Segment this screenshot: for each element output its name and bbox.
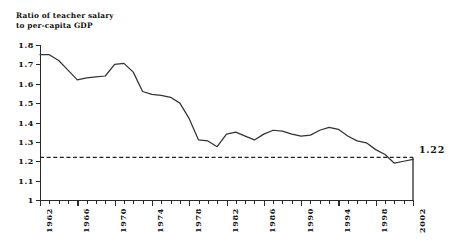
x-tick-mark-minor [105, 200, 106, 204]
x-tick-label: 1974 [155, 208, 165, 233]
axis-title: Ratio of teacher salary to per-capita GD… [16, 11, 114, 31]
x-tick-mark-major [376, 200, 377, 206]
x-tick-mark-minor [394, 200, 395, 204]
y-tick-label: 1 [28, 195, 34, 205]
data-series-line [40, 55, 413, 164]
x-tick-mark-minor [310, 200, 311, 204]
x-tick-label: 1994 [342, 208, 352, 233]
x-tick-label: 1962 [44, 208, 54, 233]
x-tick-mark-major [189, 200, 190, 206]
x-tick-label: 2002 [417, 208, 427, 233]
x-tick-mark-minor [404, 200, 405, 204]
x-tick-mark-minor [59, 200, 60, 204]
x-tick-label: 1978 [193, 208, 203, 233]
x-tick-mark-minor [143, 200, 144, 204]
plot-area: 1.81.71.61.51.41.31.21.11 19621966197019… [40, 45, 413, 200]
y-tick-label: 1.4 [18, 118, 34, 128]
x-tick-mark-minor [96, 200, 97, 204]
y-tick-label: 1.6 [18, 79, 34, 89]
endpoint-value-label: 1.22 [419, 144, 445, 155]
x-tick-mark-minor [68, 200, 69, 204]
y-tick-label: 1.1 [18, 176, 34, 186]
x-tick-mark-major [227, 200, 228, 206]
y-tick-label: 1.7 [18, 59, 34, 69]
x-tick-label: 1970 [118, 208, 128, 233]
y-tick-label: 1.8 [18, 40, 34, 50]
x-tick-mark-major [338, 200, 339, 206]
x-tick-mark-minor [199, 200, 200, 204]
x-tick-mark-major [413, 200, 414, 206]
axis-title-line-2: to per-capita GDP [16, 21, 114, 31]
x-tick-label: 1986 [267, 208, 277, 233]
x-tick-label: 1998 [379, 208, 389, 233]
axis-title-line-1: Ratio of teacher salary [16, 11, 114, 21]
x-tick-mark-minor [245, 200, 246, 204]
x-tick-mark-major [77, 200, 78, 206]
x-tick-mark-minor [254, 200, 255, 204]
x-tick-mark-minor [366, 200, 367, 204]
x-tick-mark-minor [217, 200, 218, 204]
y-tick-label: 1.5 [18, 98, 34, 108]
x-tick-mark-minor [208, 200, 209, 204]
x-tick-mark-minor [161, 200, 162, 204]
x-tick-mark-minor [171, 200, 172, 204]
x-tick-mark-minor [329, 200, 330, 204]
x-tick-mark-major [115, 200, 116, 206]
x-tick-label: 1990 [305, 208, 315, 233]
x-tick-mark-major [152, 200, 153, 206]
x-tick-mark-minor [320, 200, 321, 204]
x-tick-mark-minor [49, 200, 50, 204]
x-tick-label: 1982 [230, 208, 240, 233]
x-tick-mark-minor [133, 200, 134, 204]
x-tick-mark-minor [180, 200, 181, 204]
x-tick-mark-minor [292, 200, 293, 204]
x-tick-mark-minor [348, 200, 349, 204]
x-tick-label: 1966 [81, 208, 91, 233]
x-tick-mark-minor [385, 200, 386, 204]
x-tick-mark-minor [87, 200, 88, 204]
x-tick-mark-minor [124, 200, 125, 204]
x-tick-mark-minor [236, 200, 237, 204]
y-tick-label: 1.3 [18, 137, 34, 147]
x-tick-mark-major [40, 200, 41, 206]
x-tick-mark-minor [282, 200, 283, 204]
x-tick-mark-major [264, 200, 265, 206]
x-tick-mark-minor [273, 200, 274, 204]
x-tick-mark-major [301, 200, 302, 206]
series-line-chart [40, 45, 413, 200]
y-tick-label: 1.2 [18, 156, 34, 166]
chart-figure: Ratio of teacher salary to per-capita GD… [0, 0, 456, 249]
x-tick-mark-minor [357, 200, 358, 204]
